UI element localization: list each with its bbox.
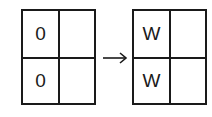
right-arrow-icon: [102, 51, 128, 65]
before-cell-r1-c1: [60, 59, 94, 103]
before-cell-r0-c1: [60, 11, 94, 59]
after-grid: W W: [132, 9, 207, 105]
after-cell-r1-c1: [171, 59, 205, 103]
before-grid: 0 0: [21, 9, 96, 105]
before-cell-r0-c0: 0: [23, 11, 60, 59]
after-cell-r0-c0: W: [134, 11, 171, 59]
before-cell-r1-c0: 0: [23, 59, 60, 103]
after-cell-r0-c1: [171, 11, 205, 59]
after-cell-r1-c0: W: [134, 59, 171, 103]
